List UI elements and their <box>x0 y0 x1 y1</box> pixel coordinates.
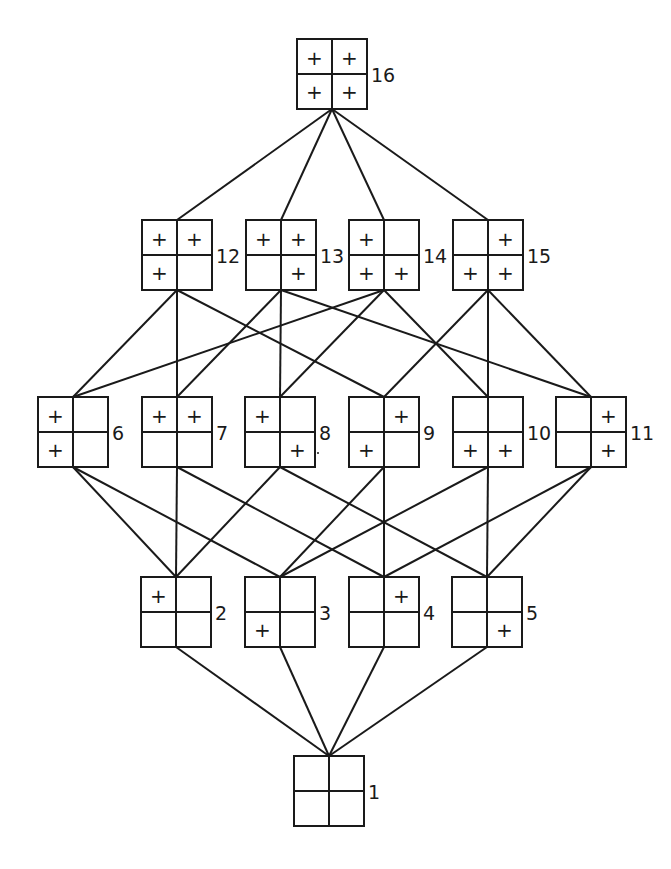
plus-icon-tl: + <box>150 584 167 608</box>
edge-16-12 <box>177 109 332 220</box>
node-2: +2 <box>141 577 227 647</box>
node-12: +++12 <box>142 220 240 290</box>
plus-icon-tr: + <box>497 227 514 251</box>
node-16: ++++16 <box>297 39 395 109</box>
edge-16-13 <box>281 109 332 220</box>
edge-6-2 <box>73 467 176 577</box>
edge-8-2 <box>176 467 280 577</box>
plus-icon-tl: + <box>151 404 168 428</box>
plus-icon-br: + <box>600 438 617 462</box>
node-5: +5 <box>452 577 538 647</box>
edge-11-5 <box>487 467 591 577</box>
plus-icon-bl: + <box>151 261 168 285</box>
edge-7-4 <box>177 467 384 577</box>
node-label: 15 <box>527 245 551 267</box>
edge-5-1 <box>329 647 487 756</box>
node-label: 8 <box>319 422 331 444</box>
edge-16-15 <box>332 109 488 220</box>
plus-icon-tl: + <box>47 404 64 428</box>
lattice-diagram: ++++16+++12+++13+++14+++15++6++7++8++9++… <box>0 0 671 869</box>
plus-icon-tr: + <box>186 227 203 251</box>
node-label: 2 <box>215 602 227 624</box>
edge-9-3 <box>280 467 384 577</box>
plus-icon-bl: + <box>358 438 375 462</box>
node-label: 10 <box>527 422 551 444</box>
plus-icon-tr: + <box>393 584 410 608</box>
node-8: ++8 <box>245 397 331 467</box>
plus-icon-br: + <box>289 438 306 462</box>
node-15: +++15 <box>453 220 551 290</box>
plus-icon-bl: + <box>47 438 64 462</box>
plus-icon-tl: + <box>254 404 271 428</box>
node-3: +3 <box>245 577 331 647</box>
edge-4-1 <box>329 647 384 756</box>
edge-12-6 <box>73 290 177 397</box>
plus-icon-tr: + <box>393 404 410 428</box>
node-label: 12 <box>216 245 240 267</box>
edge-7-2 <box>176 467 177 577</box>
edge-13-8 <box>280 290 281 397</box>
node-label: 6 <box>112 422 124 444</box>
plus-icon-br: + <box>497 438 514 462</box>
nodes-layer: ++++16+++12+++13+++14+++15++6++7++8++9++… <box>38 39 654 826</box>
edge-14-8 <box>280 290 384 397</box>
plus-icon-bl: + <box>462 438 479 462</box>
plus-icon-tr: + <box>600 404 617 428</box>
plus-icon-tr: + <box>290 227 307 251</box>
node-9: ++9 <box>349 397 435 467</box>
node-label: 16 <box>371 64 395 86</box>
edge-15-11 <box>488 290 591 397</box>
edge-2-1 <box>176 647 329 756</box>
plus-icon-bl: + <box>358 261 375 285</box>
node-label: 5 <box>526 602 538 624</box>
edge-16-14 <box>332 109 384 220</box>
node-11: ++11 <box>556 397 654 467</box>
plus-icon-br: + <box>496 618 513 642</box>
node-10: ++10 <box>453 397 551 467</box>
plus-icon-tr: + <box>341 46 358 70</box>
plus-icon-tl: + <box>306 46 323 70</box>
node-label: 9 <box>423 422 435 444</box>
plus-icon-tl: + <box>151 227 168 251</box>
plus-icon-br: + <box>497 261 514 285</box>
plus-icon-br: + <box>393 261 410 285</box>
plus-icon-tr: + <box>186 404 203 428</box>
node-1: 1 <box>294 756 380 826</box>
plus-icon-br: + <box>290 261 307 285</box>
node-14: +++14 <box>349 220 447 290</box>
annotations-layer <box>317 452 319 454</box>
plus-icon-bl: + <box>462 261 479 285</box>
edge-14-6 <box>73 290 384 397</box>
node-6: ++6 <box>38 397 124 467</box>
node-label: 3 <box>319 602 331 624</box>
stray-dot <box>317 452 319 454</box>
plus-icon-tl: + <box>358 227 375 251</box>
plus-icon-bl: + <box>254 618 271 642</box>
node-13: +++13 <box>246 220 344 290</box>
plus-icon-br: + <box>341 80 358 104</box>
node-label: 14 <box>423 245 447 267</box>
node-label: 1 <box>368 781 380 803</box>
plus-icon-tl: + <box>255 227 272 251</box>
plus-icon-bl: + <box>306 80 323 104</box>
node-7: ++7 <box>142 397 228 467</box>
node-4: +4 <box>349 577 435 647</box>
node-label: 11 <box>630 422 654 444</box>
node-label: 4 <box>423 602 435 624</box>
node-label: 7 <box>216 422 228 444</box>
node-label: 13 <box>320 245 344 267</box>
